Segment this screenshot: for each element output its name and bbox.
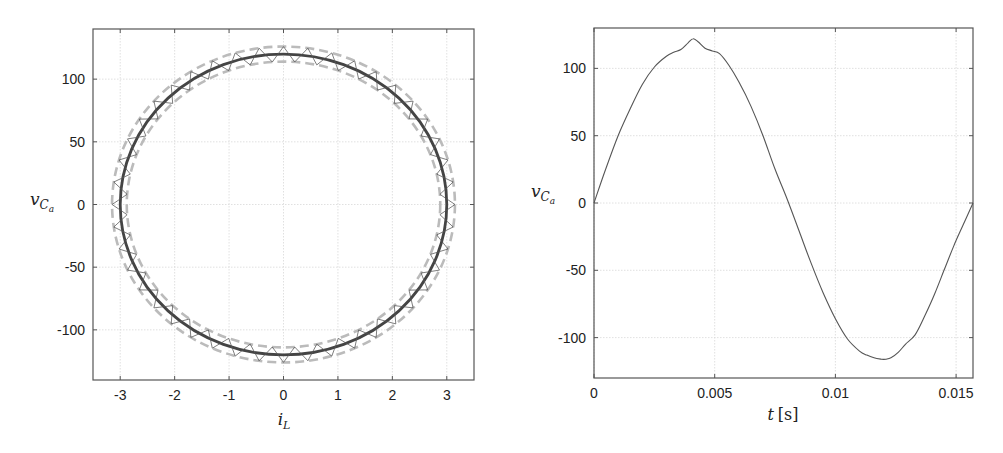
x-axis-label: iL xyxy=(278,409,291,432)
x-tick-label: -3 xyxy=(114,387,127,403)
x-tick-label: 1 xyxy=(334,387,342,403)
figure: -3-2-10123 -100-50050100 iL vCa 00.0050.… xyxy=(0,0,1003,453)
x-tick-labels: 00.0050.010.015 xyxy=(590,385,974,401)
x-tick-label: 0.015 xyxy=(939,385,974,401)
y-tick-label: -50 xyxy=(65,259,85,275)
x-tick-labels: -3-2-10123 xyxy=(114,387,451,403)
x-tick-label: -1 xyxy=(223,387,236,403)
x-tick-label: 0 xyxy=(590,385,598,401)
y-tick-label: 100 xyxy=(62,71,86,87)
y-tick-label: -100 xyxy=(57,322,85,338)
y-tick-labels: -100-50050100 xyxy=(57,71,85,338)
y-tick-labels: -100-50050100 xyxy=(558,60,586,345)
y-tick-label: 0 xyxy=(578,195,586,211)
x-tick-label: 3 xyxy=(443,387,451,403)
y-tick-label: -50 xyxy=(566,262,586,278)
x-axis-label: t[s] xyxy=(767,405,798,424)
time-series-chart: 00.0050.010.015 -100-50050100 t[s] vCa xyxy=(531,28,974,424)
y-tick-label: 0 xyxy=(77,197,85,213)
x-tick-label: 2 xyxy=(388,387,396,403)
y-tick-label: 100 xyxy=(563,60,587,76)
y-axis-label: vCa xyxy=(30,189,54,214)
y-tick-label: 50 xyxy=(69,134,85,150)
y-axis-label: vCa xyxy=(531,181,555,206)
y-tick-label: 50 xyxy=(570,128,586,144)
x-tick-label: 0.01 xyxy=(822,385,849,401)
x-tick-label: 0 xyxy=(280,387,288,403)
phase-portrait-chart: -3-2-10123 -100-50050100 iL vCa xyxy=(30,29,474,432)
x-tick-label: 0.005 xyxy=(697,385,732,401)
x-tick-label: -2 xyxy=(168,387,181,403)
y-tick-label: -100 xyxy=(558,330,586,346)
